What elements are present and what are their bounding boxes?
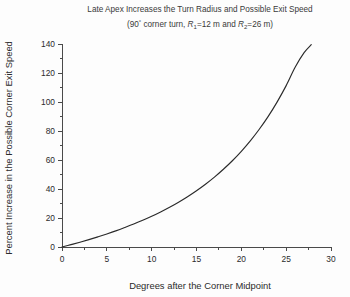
x-axis-label: Degrees after the Corner Midpoint <box>129 280 271 291</box>
subtitle-mid: corner turn, <box>141 20 187 29</box>
x-tick-label: 10 <box>147 254 157 264</box>
data-series-group <box>62 45 311 247</box>
chart-subtitle: (90° corner turn, R1=12 m and R2=26 m) <box>127 19 273 30</box>
y-tick-label: 60 <box>46 155 56 165</box>
y-tick-label: 100 <box>41 97 55 107</box>
r1-value: =12 m and <box>197 20 238 29</box>
x-axis: 051015202530 <box>60 247 336 264</box>
r2-value: =26 m) <box>247 20 273 29</box>
plot-area: 020406080100120140 051015202530 <box>41 39 336 264</box>
y-axis-label: Percent Increase in the Possible Corner … <box>3 41 14 255</box>
x-tick-label: 20 <box>237 254 247 264</box>
x-tick-label: 15 <box>192 254 202 264</box>
x-tick-label: 25 <box>282 254 292 264</box>
subtitle-open: (90 <box>127 20 139 29</box>
x-tick-label: 0 <box>60 254 65 264</box>
data-curve <box>62 45 311 247</box>
y-tick-label: 0 <box>50 242 55 252</box>
chart-figure: Late Apex Increases the Turn Radius and … <box>0 0 350 297</box>
x-tick-label: 5 <box>104 254 109 264</box>
y-tick-label: 120 <box>41 68 55 78</box>
chart-title: Late Apex Increases the Turn Radius and … <box>87 5 313 14</box>
y-axis: 020406080100120140 <box>41 39 62 252</box>
y-tick-label: 20 <box>46 213 56 223</box>
y-tick-label: 40 <box>46 184 56 194</box>
y-tick-label: 140 <box>41 39 55 49</box>
y-tick-label: 80 <box>46 126 56 136</box>
x-tick-label: 30 <box>326 254 336 264</box>
chart-canvas: Late Apex Increases the Turn Radius and … <box>0 0 350 297</box>
